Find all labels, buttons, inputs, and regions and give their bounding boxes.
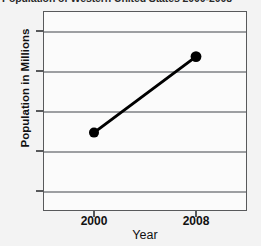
x-tick-label-2008: 2008: [166, 215, 226, 227]
gridline-55: [44, 191, 246, 193]
x-tick-label-2000: 2000: [64, 215, 124, 227]
gridline-70: [44, 71, 246, 73]
chart-title-cropped: Population of Western United States 2000…: [0, 0, 261, 7]
plot-gridlines: [44, 12, 246, 210]
y-tick-mark-60: [36, 150, 43, 152]
gridline-60: [44, 151, 246, 153]
chart-screenshot: Population of Western United States 2000…: [0, 0, 261, 246]
chart-title-text: Population of Western United States 2000…: [2, 0, 260, 4]
y-tick-mark-65: [36, 110, 43, 112]
y-tick-mark-75: [36, 30, 43, 32]
gridline-65: [44, 111, 246, 113]
gridline-75: [44, 31, 246, 33]
plot-frame: [43, 11, 247, 211]
y-tick-mark-55: [36, 190, 43, 192]
y-tick-mark-70: [36, 70, 43, 72]
y-axis-title: Population in Millions: [19, 18, 31, 158]
x-axis-title: Year: [115, 228, 175, 242]
